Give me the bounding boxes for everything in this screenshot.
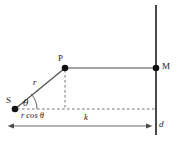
length-label-r: r: [33, 78, 37, 87]
point-dot-s: [12, 106, 19, 113]
point-label-p: P: [58, 54, 63, 63]
point-dot-m: [153, 65, 160, 72]
arrowhead-left: [8, 123, 15, 128]
dimension-label-d: d: [159, 120, 164, 129]
point-label-m: M: [162, 62, 170, 71]
dimension-label-k: k: [84, 113, 88, 122]
angle-label-theta: θ: [23, 99, 28, 108]
geometry-figure: S P M r θ r cos θ k d: [0, 0, 177, 141]
arrowhead-right: [146, 123, 153, 128]
point-label-s: S: [6, 96, 11, 105]
angle-arc-theta: [31, 94, 37, 109]
point-dot-p: [62, 65, 69, 72]
length-label-r-cos-theta: r cos θ: [21, 111, 44, 120]
